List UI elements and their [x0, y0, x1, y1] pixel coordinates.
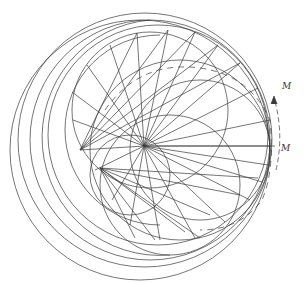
motion-arrow-path: [274, 98, 280, 170]
arrowhead-icon: [271, 96, 277, 104]
radial-line: [80, 146, 144, 150]
secondary-line: [100, 168, 258, 178]
chord: [80, 32, 195, 150]
radial-line: [144, 32, 195, 146]
geometric-diagram: M M: [0, 0, 305, 283]
label-m-lower: M: [280, 143, 291, 153]
arc-2: [65, 35, 160, 225]
radial-line: [144, 120, 270, 146]
chord: [80, 63, 240, 150]
secondary-line: [100, 168, 185, 232]
label-m-upper: M: [281, 81, 292, 91]
secondary-line: [100, 168, 200, 238]
secondary-line: [100, 168, 135, 238]
radial-line: [144, 146, 262, 182]
radial-line: [72, 92, 144, 146]
arc-1: [42, 20, 170, 255]
